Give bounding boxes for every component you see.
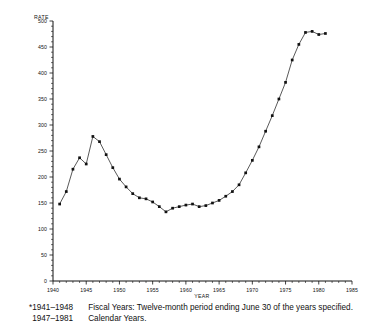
x-tick-label: 1955 (147, 287, 159, 293)
y-tick-label: 400 (38, 70, 47, 76)
data-point (324, 32, 327, 35)
y-tick-label: 150 (38, 200, 47, 206)
x-tick-label: 1980 (313, 287, 325, 293)
x-tick-label: 1985 (346, 287, 358, 293)
footnote-line-1: *1941–1948Fiscal Years: Twelve-month per… (29, 303, 359, 314)
data-point (78, 156, 81, 159)
data-point (271, 114, 274, 117)
y-axis-ticks (50, 21, 54, 281)
y-tick-label: 250 (38, 148, 47, 154)
data-point (264, 130, 267, 133)
data-point (284, 81, 287, 84)
footnote-line-2-years: 1947–1981 (32, 314, 88, 325)
data-point (178, 205, 181, 208)
y-tick-label: 350 (38, 96, 47, 102)
data-point (98, 140, 101, 143)
data-point (158, 205, 161, 208)
x-axis-title: YEAR (194, 293, 209, 299)
y-axis-tick-labels: 050100150200250300350400450500 (38, 18, 47, 284)
data-point (291, 59, 294, 62)
data-point (105, 153, 108, 156)
data-point (151, 201, 154, 204)
data-point (198, 205, 201, 208)
data-point (251, 159, 254, 162)
data-series-line (60, 31, 326, 211)
data-point (317, 33, 320, 36)
x-tick-label: 1970 (246, 287, 258, 293)
data-point (211, 202, 214, 205)
data-point (185, 204, 188, 207)
data-point (231, 190, 234, 193)
x-tick-label: 1945 (80, 287, 92, 293)
y-tick-label: 50 (41, 252, 47, 258)
data-point (111, 166, 114, 169)
data-point (258, 145, 261, 148)
data-point (311, 30, 314, 33)
y-tick-label: 200 (38, 174, 47, 180)
data-point (278, 98, 281, 101)
x-axis-ticks (53, 281, 352, 285)
y-tick-label: 100 (38, 226, 47, 232)
y-tick-label: 300 (38, 122, 47, 128)
footnote-line-1-years: 1941–1948 (32, 303, 88, 314)
data-point (131, 192, 134, 195)
data-point (244, 171, 247, 174)
x-tick-label: 1975 (279, 287, 291, 293)
data-point (118, 178, 121, 181)
data-point (297, 43, 300, 46)
data-point (218, 199, 221, 202)
data-point (171, 207, 174, 210)
data-point (191, 203, 194, 206)
data-point (72, 168, 75, 171)
data-point (138, 196, 141, 199)
data-point (224, 195, 227, 198)
data-point (204, 204, 207, 207)
footnote-line-2-text: Calendar Years. (88, 314, 146, 323)
chart-container: 050100150200250300350400450500 194019451… (0, 0, 376, 333)
data-series-points (58, 30, 326, 213)
data-point (85, 163, 88, 166)
y-tick-label: 450 (38, 44, 47, 50)
data-point (165, 210, 168, 213)
x-tick-label: 1940 (47, 287, 59, 293)
x-tick-label: 1960 (180, 287, 192, 293)
data-point (92, 135, 95, 138)
data-point (238, 183, 241, 186)
footnote-line-2: *1947–1981Calendar Years. (29, 314, 359, 325)
data-point (58, 203, 61, 206)
x-tick-label: 1965 (213, 287, 225, 293)
data-point (304, 31, 307, 34)
data-point (65, 190, 68, 193)
y-axis-title: RATE (34, 14, 49, 20)
chart-axes (53, 21, 352, 281)
data-point (125, 186, 128, 189)
footnote-line-1-text: Fiscal Years: Twelve-month period ending… (88, 303, 353, 312)
x-tick-label: 1950 (113, 287, 125, 293)
footnote-block: *1941–1948Fiscal Years: Twelve-month per… (29, 303, 359, 324)
data-point (145, 197, 148, 200)
line-chart: 050100150200250300350400450500 194019451… (0, 0, 376, 333)
y-tick-label: 0 (44, 278, 47, 284)
